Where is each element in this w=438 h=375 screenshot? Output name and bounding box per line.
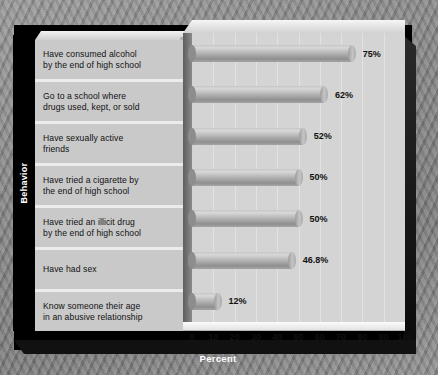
bar-cylinder bbox=[192, 45, 352, 62]
bar-cylinder bbox=[192, 128, 303, 145]
x-axis-tick-label: 0 bbox=[189, 332, 194, 342]
bar-value-label: 62% bbox=[335, 90, 353, 100]
category-label-text-line2: drugs used, kept, or sold bbox=[43, 102, 140, 112]
bar-row: 50% bbox=[192, 157, 405, 198]
bar-cylinder bbox=[192, 169, 299, 186]
y-axis-title-text: Behavior bbox=[19, 163, 29, 204]
bar-value-label: 50% bbox=[310, 172, 328, 182]
category-label-text: Have had sex bbox=[43, 264, 97, 275]
x-axis-tick-label: 20 bbox=[230, 332, 240, 342]
category-label-cell: Go to a school wheredrugs used, kept, or… bbox=[35, 82, 185, 124]
bar-cylinder bbox=[192, 210, 299, 227]
x-axis-title: Percent bbox=[35, 353, 401, 364]
bar-row: 46.8% bbox=[192, 239, 405, 280]
bar-row: 75% bbox=[192, 33, 405, 74]
category-label-cell: Have sexually activefriends bbox=[35, 124, 185, 166]
bar-value-label: 46.8% bbox=[303, 255, 329, 265]
plot-base-slab bbox=[183, 322, 405, 330]
bar-cylinder bbox=[192, 86, 324, 103]
bar-row: 50% bbox=[192, 198, 405, 239]
chart-card: Behavior Have consumed alcoholby the end… bbox=[35, 31, 401, 333]
bar-cylinder bbox=[192, 252, 292, 269]
y-axis-title: Behavior bbox=[13, 35, 35, 331]
category-label-text-line2: by the end of high school bbox=[43, 228, 141, 238]
bar-value-label: 12% bbox=[229, 296, 247, 306]
category-label-cell: Know someone their agein an abusive rela… bbox=[35, 292, 185, 331]
category-label-text: Have tried an illicit drugby the end of … bbox=[43, 217, 141, 238]
x-axis-tick-label: 30 bbox=[251, 332, 261, 342]
category-label-text-line2: in an abusive relationship bbox=[43, 312, 143, 322]
bar-value-label: 75% bbox=[363, 49, 381, 59]
bar-value-label: 52% bbox=[314, 131, 332, 141]
plot-top-bevel bbox=[183, 20, 405, 33]
category-label-text: Go to a school wheredrugs used, kept, or… bbox=[43, 91, 140, 112]
bar-series: 75%62%52%50%50%46.8%12% bbox=[192, 33, 405, 322]
bar-row: 52% bbox=[192, 116, 405, 157]
category-label-cell: Have consumed alcoholby the end of high … bbox=[35, 40, 185, 82]
x-axis-tick-label: 50 bbox=[293, 332, 303, 342]
category-label-text: Have consumed alcoholby the end of high … bbox=[43, 49, 141, 70]
bar-row: 62% bbox=[192, 74, 405, 115]
x-axis-tick-label: 10 bbox=[208, 332, 218, 342]
x-axis-tick-label: 90 bbox=[379, 332, 389, 342]
category-label-text-line2: friends bbox=[43, 144, 70, 154]
category-label-text: Have sexually activefriends bbox=[43, 133, 123, 154]
x-axis-tick-label: 60 bbox=[315, 332, 325, 342]
category-label-cell: Have had sex bbox=[35, 250, 185, 292]
category-label-text-line2: the end of high school bbox=[43, 186, 129, 196]
category-label-cell: Have tried a cigarette bythe end of high… bbox=[35, 166, 185, 208]
plot-base-edge bbox=[183, 330, 405, 331]
x-axis-ticks: 0102030405060708090100 bbox=[192, 332, 405, 346]
category-label-cell: Have tried an illicit drugby the end of … bbox=[35, 208, 185, 250]
frame-bevel-right bbox=[404, 36, 416, 350]
x-axis-tick-label: 100 bbox=[397, 332, 412, 342]
category-label-text: Have tried a cigarette bythe end of high… bbox=[43, 175, 139, 196]
category-label-text: Know someone their agein an abusive rela… bbox=[43, 301, 143, 322]
category-label-column: Have consumed alcoholby the end of high … bbox=[35, 40, 185, 331]
label-column-top-bevel bbox=[35, 31, 185, 40]
x-axis-tick-label: 80 bbox=[357, 332, 367, 342]
bar-value-label: 50% bbox=[310, 214, 328, 224]
x-axis-tick-label: 40 bbox=[272, 332, 282, 342]
bar-row: 12% bbox=[192, 281, 405, 322]
bar-cylinder bbox=[192, 293, 218, 310]
x-axis-tick-label: 70 bbox=[336, 332, 346, 342]
category-label-text-line2: by the end of high school bbox=[43, 60, 141, 70]
